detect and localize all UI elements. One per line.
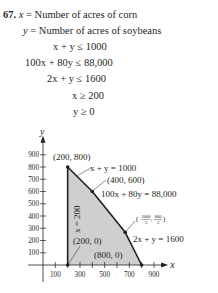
- x-axis-arrow: [161, 263, 168, 268]
- fraction-part: 2000: [142, 214, 152, 219]
- feasible-region-chart: 1003005007009001002003004005006007008009…: [0, 0, 218, 293]
- fraction-part: ,: [151, 216, 153, 222]
- y-tick-label: 400: [28, 213, 39, 221]
- equation-label: 2x + y = 1600: [133, 234, 184, 244]
- x-tick-label: 300: [75, 271, 86, 279]
- equation-label: x = 200: [72, 205, 82, 233]
- y-tick-label: 700: [28, 176, 39, 184]
- x-tick-label: 500: [99, 271, 110, 279]
- x-tick-label: 700: [124, 271, 135, 279]
- y-tick-label: 300: [28, 225, 39, 233]
- y-axis-arrow: [41, 136, 46, 143]
- vertex-point: [66, 165, 70, 169]
- fraction-part: ): [163, 215, 166, 223]
- vertex-label: (800, 0): [94, 250, 123, 260]
- x-tick-label: 900: [149, 271, 160, 279]
- vertex-label: (400, 600): [107, 175, 145, 185]
- fraction-part: (: [136, 215, 139, 223]
- y-tick-label: 900: [28, 151, 39, 159]
- y-axis-label: y: [39, 126, 45, 137]
- fraction-part: 3: [157, 220, 160, 225]
- y-tick-label: 100: [28, 249, 39, 257]
- x-axis-label: x: [169, 259, 175, 270]
- fraction-part: 3: [145, 220, 148, 225]
- x-tick-label: 100: [50, 271, 61, 279]
- vertex-label: (200, 800): [53, 152, 91, 162]
- fraction-part: 800: [155, 214, 163, 219]
- vertex-label-fraction: (20003,8003): [136, 214, 166, 225]
- y-tick-label: 500: [28, 200, 39, 208]
- leader-line: [77, 168, 91, 176]
- y-tick-label: 800: [28, 164, 39, 172]
- vertex-label: (200, 0): [73, 236, 102, 246]
- y-tick-label: 600: [28, 188, 39, 196]
- leader-line: [126, 221, 135, 231]
- equation-label: x + y = 1000: [90, 163, 137, 173]
- y-tick-label: 200: [28, 237, 39, 245]
- equation-label: 100x + 80y = 88,000: [101, 189, 177, 199]
